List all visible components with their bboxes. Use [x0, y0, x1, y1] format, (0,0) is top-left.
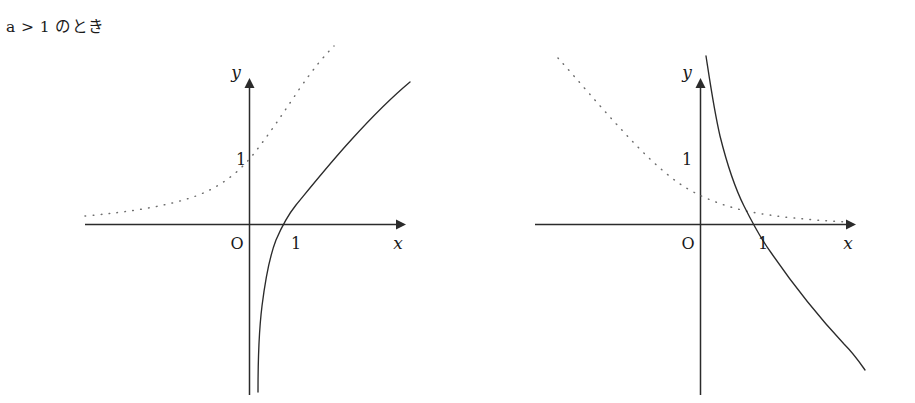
- x-axis-arrowhead-left: [396, 220, 406, 230]
- plot-panel-a-between-0-and-1: 0 < a < 1 のとき 1 O 1 y x: [458, 0, 915, 403]
- curve-logarithm-solid-left: [258, 82, 410, 392]
- origin-label-left: O: [230, 234, 243, 253]
- curve-logarithm-solid-right: [706, 56, 865, 370]
- plot-right-svg: 1 O 1 y x: [458, 0, 915, 403]
- x-axis-arrowhead-right: [846, 220, 856, 230]
- plot-left-svg: 1 O 1 y x: [0, 0, 457, 403]
- x-tick-label-1-right: 1: [758, 234, 768, 253]
- y-axis-name-right: y: [681, 62, 692, 82]
- y-tick-label-1-right: 1: [682, 150, 692, 169]
- x-tick-label-1-left: 1: [291, 234, 301, 253]
- x-axis-name-left: x: [393, 233, 403, 253]
- y-tick-label-1-left: 1: [236, 150, 246, 169]
- curve-exponential-dotted-left: [85, 46, 334, 216]
- plot-panel-a-greater-than-1: a > 1 のとき 1 O 1 y x: [0, 0, 457, 403]
- y-axis-arrowhead-right: [696, 78, 706, 88]
- x-axis-name-right: x: [843, 233, 853, 253]
- figure-root: a > 1 のとき 1 O 1 y x 0 < a < 1 のとき: [0, 0, 915, 403]
- y-axis-arrowhead-left: [245, 78, 255, 88]
- origin-label-right: O: [681, 234, 694, 253]
- y-axis-name-left: y: [230, 62, 241, 82]
